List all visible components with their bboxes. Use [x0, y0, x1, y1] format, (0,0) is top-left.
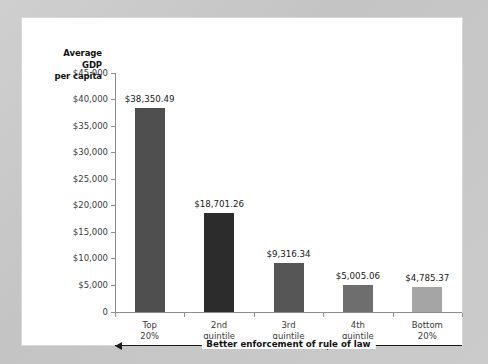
x-axis-line	[115, 312, 462, 313]
annotation-arrowhead-left	[115, 342, 122, 350]
direction-annotation: Better enforcement of rule of law	[115, 338, 462, 354]
plot-area: $45,000$40,000$35,000$30,000$25,000$20,0…	[115, 73, 462, 312]
bar-value-label: $38,350.49	[125, 94, 175, 104]
y-tick-label-text: $20,000	[73, 200, 115, 210]
y-tick-label-text: $45,000	[73, 68, 115, 78]
y-tick-label: $5,000	[50, 280, 115, 291]
x-tick-mark	[115, 313, 116, 317]
x-tick-mark	[323, 313, 324, 317]
x-tick-mark	[184, 313, 185, 317]
bar	[204, 213, 234, 312]
chart-panel: Average GDP per capita $45,000$40,000$35…	[22, 18, 462, 345]
x-category-label-line: 4th	[342, 320, 374, 331]
y-axis-title-line-1: Average	[30, 48, 102, 60]
y-tick-label: $20,000	[50, 200, 115, 211]
y-tick-mark	[111, 285, 115, 286]
y-tick-mark	[111, 73, 115, 74]
annotation-label: Better enforcement of rule of law	[201, 339, 375, 349]
bar	[274, 263, 304, 312]
y-tick-mark	[111, 205, 115, 206]
y-tick-label: $10,000	[50, 253, 115, 264]
y-tick-label-text: $10,000	[73, 253, 115, 263]
y-tick-label: $40,000	[50, 94, 115, 105]
x-category-label-line: 3rd	[273, 320, 305, 331]
x-tick-mark	[393, 313, 394, 317]
y-tick-mark	[111, 258, 115, 259]
y-tick-label: $25,000	[50, 174, 115, 185]
bar-value-label: $18,701.26	[194, 199, 244, 209]
y-tick-mark	[111, 232, 115, 233]
y-tick-label: $30,000	[50, 147, 115, 158]
x-tick-mark	[254, 313, 255, 317]
y-axis-line	[115, 73, 116, 312]
y-tick-mark	[111, 179, 115, 180]
y-tick-label-text: $25,000	[73, 174, 115, 184]
bar	[135, 108, 165, 312]
y-tick-mark	[111, 99, 115, 100]
x-tick-mark	[462, 313, 463, 317]
x-category-label-line: Top	[140, 320, 159, 331]
chart-page: Average GDP per capita $45,000$40,000$35…	[0, 0, 488, 364]
bar	[343, 285, 373, 312]
x-category-label-line: Bottom	[412, 320, 443, 331]
y-tick-mark	[111, 152, 115, 153]
x-category-label-line: 2nd	[203, 320, 235, 331]
y-tick-mark	[111, 126, 115, 127]
y-tick-label-text: $5,000	[78, 280, 115, 290]
y-tick-label-text: $30,000	[73, 147, 115, 157]
y-tick-label-text: $35,000	[73, 121, 115, 131]
y-tick-label: 0	[50, 307, 115, 318]
y-tick-label-text: $15,000	[73, 227, 115, 237]
bar	[412, 287, 442, 312]
y-tick-label: $15,000	[50, 227, 115, 238]
y-tick-label: $35,000	[50, 121, 115, 132]
bar-value-label: $5,005.06	[336, 271, 380, 281]
y-tick-label: $45,000	[50, 68, 115, 79]
bar-value-label: $4,785.37	[405, 273, 449, 283]
bar-value-label: $9,316.34	[266, 249, 310, 259]
y-tick-label-text: $40,000	[73, 94, 115, 104]
